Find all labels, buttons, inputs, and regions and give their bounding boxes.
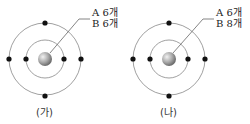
label-a-ga: A 6개 xyxy=(92,7,118,18)
electron xyxy=(23,56,28,61)
atom-ga xyxy=(6,19,90,99)
nucleus xyxy=(162,52,176,66)
electron xyxy=(42,20,47,25)
electron xyxy=(6,56,11,61)
electron xyxy=(202,56,207,61)
nucleus xyxy=(38,52,52,66)
label-a-na: A 6개 xyxy=(216,7,242,18)
electron xyxy=(42,93,47,98)
electron xyxy=(78,56,83,61)
atom-na xyxy=(130,19,214,99)
label-b-na: B 8개 xyxy=(216,18,242,29)
electron xyxy=(185,56,190,61)
electron xyxy=(61,56,66,61)
electron xyxy=(166,93,171,98)
caption-ga: (가) xyxy=(36,104,53,119)
electron xyxy=(147,56,152,61)
electron xyxy=(130,56,135,61)
electron xyxy=(166,20,171,25)
label-b-ga: B 6개 xyxy=(92,18,118,29)
caption-na: (나) xyxy=(160,104,177,119)
